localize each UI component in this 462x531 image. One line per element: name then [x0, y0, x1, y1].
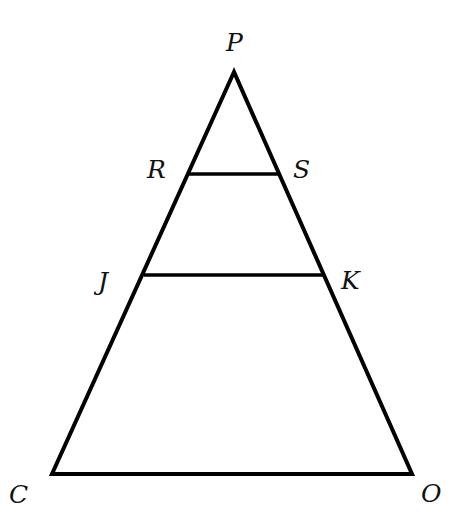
label-j: J: [93, 267, 110, 296]
label-r: R: [146, 155, 166, 184]
label-o: O: [421, 479, 442, 508]
label-c: C: [9, 480, 28, 509]
label-s: S: [293, 155, 310, 184]
triangle-diagram: P R S J K C O: [0, 0, 462, 531]
label-k: K: [340, 266, 361, 295]
label-p: P: [225, 28, 244, 57]
